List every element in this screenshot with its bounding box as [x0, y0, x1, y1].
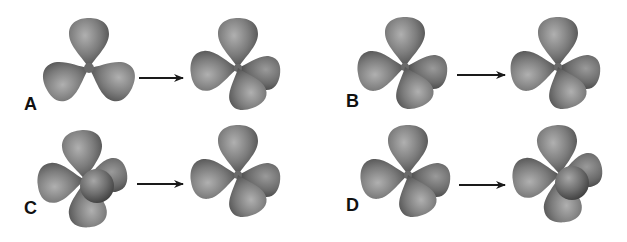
panel-c-start-orbital — [36, 128, 130, 229]
panel-label-d: D — [346, 196, 359, 214]
panel-label-b: B — [346, 92, 359, 110]
panel-label-a: A — [24, 95, 37, 113]
panel-a-end-orbital — [189, 18, 283, 114]
panel-b-end-orbital — [508, 17, 602, 113]
panel-label-c: C — [24, 199, 37, 217]
panel-b-start-orbital — [355, 17, 449, 113]
panel-c-end-orbital — [188, 125, 282, 221]
orbital-diagrams — [0, 0, 627, 242]
panel-d-end-orbital — [511, 123, 605, 224]
panel-a-start-orbital — [37, 18, 140, 106]
panel-d-start-orbital — [358, 125, 452, 221]
orbital-figure: A B C D — [0, 0, 627, 242]
